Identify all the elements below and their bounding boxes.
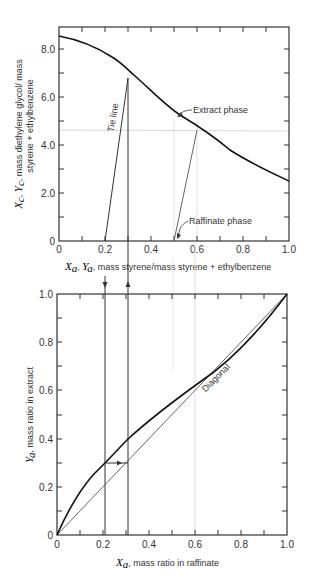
tick-label: 0.6: [39, 385, 53, 396]
extract-phase-label: Extract phase: [193, 105, 248, 115]
arrow-right-icon: [117, 461, 122, 466]
tick-label: 8.0: [41, 44, 55, 55]
tick-label: 0: [54, 539, 60, 550]
tick-label: 0.2: [96, 539, 110, 550]
top-x-tick-labels: 0 0.2 0.4 0.6 0.8 1.0: [56, 244, 296, 255]
tick-label: 0.8: [236, 244, 250, 255]
tick-label: 0.8: [234, 539, 248, 550]
bottom-plot: 0 0.2 0.4 0.6 0.8 1.0 0 0.2 0.4 0.6 0.8 …: [23, 241, 294, 570]
raffinate-phase-label: Raffinate phase: [189, 216, 252, 226]
tick-label: 1.0: [280, 539, 294, 550]
tick-label: 0.6: [190, 244, 204, 255]
bottom-y-tick-labels: 0 0.2 0.4 0.6 0.8 1.0: [39, 289, 53, 541]
tick-label: 0.4: [144, 244, 158, 255]
tick-label: 2.0: [41, 188, 55, 199]
svg-text:Ya, mass ratio in extract: Ya, mass ratio in extract: [23, 366, 37, 463]
tick-label: 4.0: [41, 140, 55, 151]
tick-label: 0.6: [188, 539, 202, 550]
arrow-up-icon: [126, 281, 131, 287]
svg-text:Xc, Yc, mass diethylene glycol: Xc, Yc, mass diethylene glycol/ mass: [12, 59, 26, 210]
tick-label: 0: [47, 530, 53, 541]
tick-label: 0.2: [39, 482, 53, 493]
tie-line-label: Tie line: [106, 102, 121, 132]
tick-label: 0.8: [39, 337, 53, 348]
diagonal-line: [57, 294, 287, 535]
tick-label: 0.2: [98, 244, 112, 255]
tick-label: 0.4: [39, 434, 53, 445]
bottom-x-axis-label: Xa, mass ratio in raffinate: [115, 556, 219, 570]
tick-label: 1.0: [39, 289, 53, 300]
top-y-tick-labels: 0 2.0 4.0 6.0 8.0: [41, 44, 55, 247]
tick-label: 0.4: [142, 539, 156, 550]
top-y-axis-label: Xc, Yc, mass diethylene glycol/ mass sty…: [12, 59, 35, 210]
figure: 0 0.2 0.4 0.6 0.8 1.0 0 2.0 4.0 6.0 8.0 …: [0, 0, 313, 582]
arrow-down-icon: [103, 282, 108, 288]
bottom-x-tick-labels: 0 0.2 0.4 0.6 0.8 1.0: [54, 539, 294, 550]
tick-label: 6.0: [41, 92, 55, 103]
tick-label: 0: [49, 236, 55, 247]
top-plot: 0 0.2 0.4 0.6 0.8 1.0 0 2.0 4.0 6.0 8.0 …: [12, 27, 296, 535]
tie-line: [105, 78, 128, 241]
svg-text:styrene + ethylbenzene: styrene + ethylbenzene: [25, 79, 35, 172]
tick-label: 1.0: [282, 244, 296, 255]
top-x-axis-label: Xa, Ya, mass styrene/mass styrene + ethy…: [64, 260, 271, 274]
tick-label: 0: [56, 244, 62, 255]
bottom-y-axis-label: Ya, mass ratio in extract: [23, 366, 37, 463]
